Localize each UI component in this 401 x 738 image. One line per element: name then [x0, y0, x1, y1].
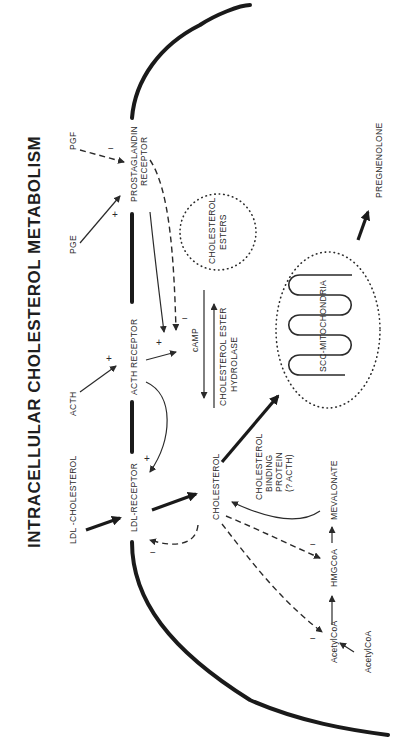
cholesterol-inhibits-ldl-receptor-arrow — [150, 525, 198, 544]
pregnenolone-label: PREGNENOLONE — [374, 123, 384, 198]
hydrolase-label-1: CHOLESTEROL ESTER — [218, 307, 228, 406]
acth-label: ACTH — [68, 392, 78, 416]
mevalonate-to-cholesterol-arrow — [232, 502, 320, 519]
prostaglandin-receptor-label-2: RECEPTOR — [139, 137, 149, 186]
cholesterol-inhibits-acetylcoa-arrow — [222, 524, 322, 632]
acetylcoa-label-2: AcetylCoA — [363, 631, 373, 673]
acth-receptor-label: ACTH RECEPTOR — [129, 319, 139, 395]
mevalonate-label: MEVALONATE — [329, 460, 339, 520]
acetylcoa-input-arrow — [340, 643, 354, 652]
pg-receptor-to-camp-arrow — [150, 212, 164, 332]
prostaglandin-receptor-label: PROSTAGLANDIN — [129, 126, 139, 202]
pg-camp-plus-sign: + — [156, 337, 162, 348]
acetylcoa-minus-sign: − — [310, 633, 316, 644]
binding-protein-label-4: (? ACTH) — [284, 454, 294, 492]
acth-to-receptor-arrow — [80, 366, 116, 392]
acetylcoa-label-1: AcetylCoA — [329, 621, 339, 663]
scc-mitochondria-label: SCC-MITOCHONDRIA — [318, 280, 328, 372]
hmgcoa-label: HMGCoA — [329, 549, 339, 587]
ldl-receptor-label: LDL-RECEPTOR — [129, 463, 139, 532]
cholesterol-metabolism-diagram: INTRACELLULAR CHOLESTEROL METABOLISM LDL… — [0, 0, 401, 738]
hydrolase-label-2: HYDROLASE — [229, 337, 239, 392]
cholesterol-inhibits-hmgcoa-arrow — [226, 516, 320, 558]
ldl-receptor-plus-sign: + — [144, 453, 150, 464]
diagram-title: INTRACELLULAR CHOLESTEROL METABOLISM — [25, 136, 44, 548]
pgf-label: PGF — [68, 132, 78, 150]
pge-plus-sign: + — [112, 209, 118, 220]
ldl-receptor-minus-sign: − — [150, 547, 156, 558]
binding-protein-label-2: BINDING — [264, 454, 274, 492]
ldl-to-receptor-arrow — [86, 518, 120, 530]
cholesterol-to-mitochondria-arrow — [222, 396, 278, 462]
camp-label: cAMP — [190, 328, 200, 352]
cholesterol-label: CHOLESTEROL — [211, 453, 221, 520]
pge-label: PGE — [68, 235, 78, 254]
pgf-to-receptor-arrow — [80, 150, 124, 162]
cell-membrane-top — [132, 5, 250, 118]
binding-protein-label-3: PROTEIN — [274, 452, 284, 492]
hmgcoa-minus-sign: − — [310, 539, 316, 550]
ldl-cholesterol-label: LDL -CHOLESTEROL — [68, 455, 78, 544]
mitochondria-to-pregnenolone-arrow — [358, 212, 368, 240]
acth-plus-sign: + — [106, 353, 112, 364]
pgf-minus-sign: − — [108, 143, 114, 154]
ldl-receptor-to-cholesterol-arrow — [152, 494, 196, 510]
cholesterol-esters-label-2: ESTERS — [218, 214, 228, 250]
binding-protein-label-1: CHOLESTEROL — [254, 433, 264, 500]
cholesterol-esters-label-1: CHOLESTEROL — [207, 197, 217, 264]
acth-receptor-to-camp-arrow — [146, 352, 176, 360]
pg-camp-minus-sign: − — [182, 313, 188, 324]
